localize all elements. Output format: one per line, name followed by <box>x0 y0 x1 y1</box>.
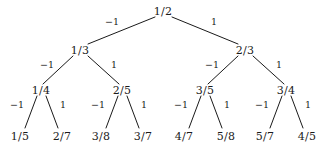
tree-edge <box>127 96 139 128</box>
tree-node-leaf: 2/7 <box>53 131 71 142</box>
edge-label: 1 <box>224 100 230 110</box>
edge-label: −1 <box>205 60 219 70</box>
edge-label: 1 <box>141 100 147 110</box>
tree-node-level2: 1/4 <box>32 85 50 96</box>
tree-edge-layer <box>0 0 325 144</box>
edge-label: 1 <box>211 17 217 27</box>
tree-node-leaf: 3/7 <box>134 131 152 142</box>
tree-edge <box>106 96 118 128</box>
tree-edge <box>189 96 201 128</box>
tree-node-level1: 2/3 <box>236 45 254 56</box>
tree-node-root: 1/2 <box>154 6 172 17</box>
tree-node-leaf: 1/5 <box>11 131 29 142</box>
tree-node-leaf: 4/5 <box>298 131 316 142</box>
tree-node-leaf: 3/8 <box>92 131 110 142</box>
edge-label: −1 <box>174 100 188 110</box>
tree-edge <box>172 17 238 44</box>
tree-edge <box>25 96 37 128</box>
edge-label: 1 <box>60 100 66 110</box>
edge-label: −1 <box>91 100 105 110</box>
edge-label: −1 <box>105 17 119 27</box>
edge-label: −1 <box>40 60 54 70</box>
edge-label: −1 <box>10 100 24 110</box>
tree-edge <box>270 96 282 128</box>
tree-node-leaf: 4/7 <box>175 131 193 142</box>
tree-edge <box>210 96 222 128</box>
tree-edge <box>88 17 155 44</box>
tree-node-leaf: 5/8 <box>217 131 235 142</box>
edge-label: 1 <box>276 60 282 70</box>
tree-node-level1: 1/3 <box>71 45 89 56</box>
edge-label: 1 <box>111 60 117 70</box>
tree-node-level2: 3/4 <box>277 85 295 96</box>
tree-node-leaf: 5/7 <box>256 131 274 142</box>
edge-label: −1 <box>255 100 269 110</box>
fraction-tree-figure: 1/21/32/31/42/53/53/41/52/73/83/74/75/85… <box>0 0 325 144</box>
tree-node-level2: 3/5 <box>196 85 214 96</box>
edge-label: 1 <box>305 100 311 110</box>
tree-edge <box>291 96 303 128</box>
tree-edge <box>46 96 58 128</box>
tree-node-level2: 2/5 <box>113 85 131 96</box>
